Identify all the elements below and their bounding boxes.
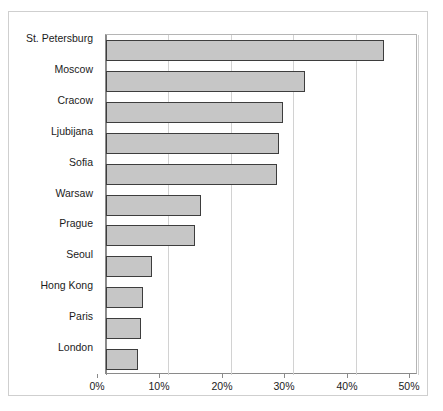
- bar-row: [106, 225, 418, 246]
- y-axis-category-label: St. Petersburg: [9, 28, 93, 49]
- x-axis-tick-mark: [97, 374, 98, 378]
- plot-area: [105, 34, 417, 374]
- bar-row: [106, 256, 418, 277]
- bar-row: [106, 40, 418, 61]
- figure-frame: 0%10%20%30%40%50% St. PetersburgMoscowCr…: [8, 11, 428, 396]
- bar[interactable]: [106, 195, 201, 216]
- x-axis-tick-mark: [284, 374, 285, 378]
- bar[interactable]: [106, 318, 141, 339]
- bar-row: [106, 102, 418, 123]
- y-axis-category-label: Cracow: [9, 90, 93, 111]
- bar[interactable]: [106, 40, 384, 61]
- bar-row: [106, 349, 418, 370]
- bar-row: [106, 71, 418, 92]
- x-axis-tick-label: 10%: [139, 380, 179, 392]
- y-axis-category-label: London: [9, 337, 93, 358]
- x-axis-tick-mark: [409, 374, 410, 378]
- bar-row: [106, 318, 418, 339]
- bar[interactable]: [106, 133, 279, 154]
- gridline: [418, 35, 419, 375]
- bar-row: [106, 195, 418, 216]
- bar-row: [106, 133, 418, 154]
- bar[interactable]: [106, 164, 277, 185]
- x-axis-tick-mark: [347, 374, 348, 378]
- bar-chart-figure: 0%10%20%30%40%50% St. PetersburgMoscowCr…: [0, 0, 443, 411]
- bar[interactable]: [106, 256, 152, 277]
- bar[interactable]: [106, 225, 195, 246]
- y-axis-category-label: Moscow: [9, 59, 93, 80]
- x-axis-tick-mark: [222, 374, 223, 378]
- bar-row: [106, 287, 418, 308]
- x-axis-tick-label: 20%: [202, 380, 242, 392]
- x-axis-tick-mark: [159, 374, 160, 378]
- y-axis-category-label: Seoul: [9, 244, 93, 265]
- x-axis-tick-label: 0%: [77, 380, 117, 392]
- bar-row: [106, 164, 418, 185]
- x-axis-tick-label: 50%: [389, 380, 429, 392]
- bar[interactable]: [106, 71, 305, 92]
- y-axis-category-label: Prague: [9, 213, 93, 234]
- y-axis-category-label: Hong Kong: [9, 275, 93, 296]
- y-axis-category-label: Sofia: [9, 152, 93, 173]
- y-axis-category-label: Warsaw: [9, 183, 93, 204]
- y-axis-category-label: Ljubijana: [9, 121, 93, 142]
- bar[interactable]: [106, 349, 138, 370]
- bar[interactable]: [106, 287, 143, 308]
- x-axis-tick-label: 40%: [327, 380, 367, 392]
- x-axis-tick-label: 30%: [264, 380, 304, 392]
- y-axis-category-label: Paris: [9, 306, 93, 327]
- bar[interactable]: [106, 102, 283, 123]
